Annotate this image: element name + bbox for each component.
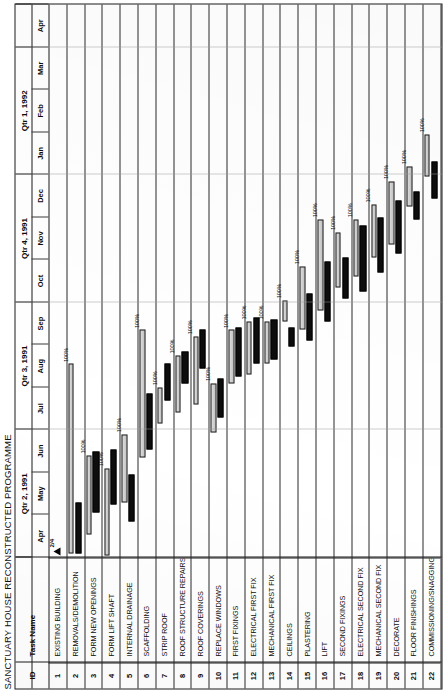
actual-bar[interactable] bbox=[324, 261, 330, 321]
task-track: 2/4 bbox=[48, 4, 66, 557]
table-row[interactable]: 8ROOF STRUCTURE REPAIRS100% bbox=[173, 4, 192, 688]
table-row[interactable]: 21FLOOR FINISHINGS100% bbox=[404, 4, 423, 688]
table-row[interactable]: 13MECHANICAL FIRST FIX100% bbox=[262, 4, 281, 688]
task-id-cell: 3 bbox=[84, 662, 102, 688]
table-row[interactable]: 10REPLACE WINDOWS100% bbox=[208, 4, 227, 688]
actual-bar[interactable] bbox=[359, 225, 365, 291]
planned-bar[interactable] bbox=[353, 219, 358, 276]
percent-complete-label: 100% bbox=[62, 348, 68, 362]
task-track: 100% bbox=[404, 4, 422, 557]
table-row[interactable]: 2REMOVALS/DEMOLITION100% bbox=[66, 4, 85, 688]
table-row[interactable]: 4FORM LIFT SHAFT100% bbox=[101, 4, 120, 688]
actual-bar[interactable] bbox=[217, 378, 223, 416]
table-row[interactable]: 19MECHANICAL SECOND FIX100% bbox=[368, 4, 387, 688]
task-name-cell: ELECTRICAL FIRST FIX bbox=[244, 557, 262, 662]
month-header-cell: Mar bbox=[31, 46, 48, 90]
planned-bar[interactable] bbox=[121, 434, 126, 502]
task-track: 100% bbox=[333, 4, 351, 557]
task-name-cell: SECOND FIXINGS bbox=[333, 557, 351, 662]
task-track: 100% bbox=[119, 4, 137, 557]
planned-bar[interactable] bbox=[335, 232, 340, 287]
gantt-grid: Qtr 2, 1991Qtr 3, 1991Qtr 4, 1991Qtr 1, … bbox=[14, 3, 442, 689]
table-row[interactable]: 17SECOND FIXINGS100% bbox=[333, 4, 352, 688]
percent-complete-label: 100% bbox=[364, 188, 370, 202]
task-track: 100% bbox=[279, 4, 297, 557]
table-row[interactable]: 20DECORATE100% bbox=[386, 4, 405, 688]
planned-bar[interactable] bbox=[86, 455, 91, 534]
actual-bar[interactable] bbox=[181, 351, 187, 383]
task-id-cell: 11 bbox=[226, 662, 244, 688]
table-row[interactable]: 16LIFT100% bbox=[315, 4, 334, 688]
column-header-task: Task Name bbox=[15, 557, 48, 662]
gantt-sheet: SANCTUARY HOUSE RECONSTRUCTED PROGRAMME … bbox=[0, 0, 444, 691]
table-row[interactable]: 6SCAFFOLDING100% bbox=[137, 4, 156, 688]
planned-bar[interactable] bbox=[228, 329, 233, 382]
table-row[interactable]: 12ELECTRICAL FIRST FIX100% bbox=[244, 4, 263, 688]
planned-bar[interactable] bbox=[264, 321, 269, 364]
table-row[interactable]: 3FORM NEW OPENINGS100% bbox=[84, 4, 103, 688]
table-row[interactable]: 11FIRST FIXINGS100% bbox=[226, 4, 245, 688]
month-header-cell: Jun bbox=[31, 428, 48, 472]
actual-bar[interactable] bbox=[377, 217, 383, 272]
actual-bar[interactable] bbox=[288, 327, 294, 346]
table-row[interactable]: 5INTERNAL DRAINAGE100% bbox=[119, 4, 138, 688]
actual-bar[interactable] bbox=[342, 257, 348, 297]
task-name-cell: LIFT bbox=[315, 557, 333, 662]
task-track: 100% bbox=[368, 4, 386, 557]
table-row[interactable]: 9ROOF COVERINGS100% bbox=[190, 4, 209, 688]
planned-bar[interactable] bbox=[104, 468, 109, 555]
actual-bar[interactable] bbox=[199, 329, 205, 367]
table-row[interactable]: 18ELECTRICAL SECOND FIX100% bbox=[351, 4, 370, 688]
table-row[interactable]: 1EXISTING BUILDING2/4 bbox=[48, 4, 67, 688]
actual-bar[interactable] bbox=[75, 502, 81, 553]
actual-bar[interactable] bbox=[128, 474, 134, 521]
planned-bar[interactable] bbox=[246, 321, 251, 374]
page-title: SANCTUARY HOUSE RECONSTRUCTED PROGRAMME bbox=[1, 434, 12, 689]
planned-bar[interactable] bbox=[68, 363, 73, 552]
planned-bar[interactable] bbox=[388, 181, 393, 245]
task-name-cell: FORM LIFT SHAFT bbox=[101, 557, 119, 662]
month-header-cell: Apr bbox=[31, 3, 48, 47]
planned-bar[interactable] bbox=[371, 204, 376, 257]
task-id-cell: 4 bbox=[101, 662, 119, 688]
month-header-cell: May bbox=[31, 471, 48, 515]
task-name-cell: FLOOR FINISHINGS bbox=[404, 557, 422, 662]
table-row[interactable]: 22COMMISSIONING/SNAGGING100% bbox=[422, 4, 441, 688]
task-track: 100% bbox=[351, 4, 369, 557]
task-id-cell: 6 bbox=[137, 662, 155, 688]
planned-bar[interactable] bbox=[193, 336, 198, 404]
planned-bar[interactable] bbox=[406, 166, 411, 206]
actual-bar[interactable] bbox=[270, 319, 276, 359]
actual-bar[interactable] bbox=[235, 327, 241, 376]
percent-complete-label: 100% bbox=[240, 305, 246, 319]
actual-bar[interactable] bbox=[413, 191, 419, 219]
percent-complete-label: 100% bbox=[293, 250, 299, 264]
actual-bar[interactable] bbox=[110, 449, 116, 504]
month-header-cell: Sep bbox=[31, 301, 48, 345]
planned-bar[interactable] bbox=[282, 300, 287, 321]
actual-bar[interactable] bbox=[164, 363, 170, 399]
task-name-cell: INTERNAL DRAINAGE bbox=[119, 557, 137, 662]
task-name-cell: MECHANICAL FIRST FIX bbox=[262, 557, 280, 662]
task-id-cell: 22 bbox=[422, 662, 440, 688]
actual-bar[interactable] bbox=[395, 200, 401, 253]
task-track: 100% bbox=[84, 4, 102, 557]
task-name-cell: FIRST FIXINGS bbox=[226, 557, 244, 662]
planned-bar[interactable] bbox=[317, 219, 322, 310]
planned-bar[interactable] bbox=[175, 355, 180, 412]
task-name-cell: ELECTRICAL SECOND FIX bbox=[351, 557, 369, 662]
actual-bar[interactable] bbox=[146, 393, 152, 448]
table-row[interactable]: 15PLASTERING100% bbox=[297, 4, 316, 688]
planned-bar[interactable] bbox=[210, 383, 215, 432]
planned-bar[interactable] bbox=[157, 387, 162, 423]
planned-bar[interactable] bbox=[139, 329, 144, 457]
percent-complete-label: 100% bbox=[186, 320, 192, 334]
task-name-cell: MECHANICAL SECOND FIX bbox=[368, 557, 386, 662]
percent-complete-label: 100% bbox=[133, 314, 139, 328]
planned-bar[interactable] bbox=[299, 266, 304, 330]
planned-bar[interactable] bbox=[424, 134, 429, 177]
task-id-cell: 19 bbox=[368, 662, 386, 688]
table-row[interactable]: 14CEILINGS100% bbox=[279, 4, 298, 688]
actual-bar[interactable] bbox=[431, 161, 437, 197]
actual-bar[interactable] bbox=[253, 317, 259, 364]
